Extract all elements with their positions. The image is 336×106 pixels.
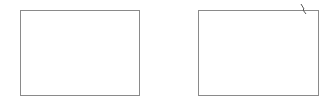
diagonal-stroke <box>298 2 310 16</box>
left-panel <box>20 10 140 96</box>
right-panel <box>198 10 319 96</box>
